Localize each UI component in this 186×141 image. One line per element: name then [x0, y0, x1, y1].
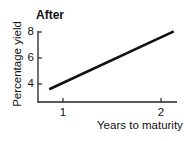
- plot-area: [0, 0, 186, 141]
- yield-curve-line: [49, 31, 173, 89]
